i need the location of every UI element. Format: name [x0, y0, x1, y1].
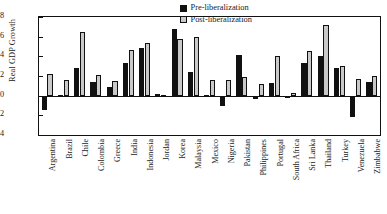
- bar-post-indonesia: [145, 43, 150, 96]
- zero-baseline: [39, 96, 380, 97]
- bar-post-philippines: [259, 84, 264, 96]
- bar-post-brazil: [64, 80, 69, 96]
- bar-post-thailand: [323, 25, 328, 96]
- bar-pre-brazil: [58, 95, 63, 97]
- bar-pre-turkey: [334, 68, 339, 96]
- bar-post-south-africa: [291, 93, 296, 96]
- bar-post-greece: [112, 81, 117, 96]
- bar-post-malaysia: [194, 37, 199, 96]
- x-tick-label-portugal: Portugal: [277, 139, 285, 166]
- y-tick-mark: [39, 135, 43, 136]
- bar-pre-india: [123, 63, 128, 95]
- bar-post-argentina: [47, 74, 52, 96]
- chart-figure: Real GDP Growth Pre-liberalization Post-…: [0, 0, 387, 214]
- legend-label-post: Post-liberalization: [191, 15, 252, 26]
- x-tick-label-argentina: Argentina: [49, 139, 57, 171]
- bar-post-mexico: [210, 80, 215, 96]
- bar-post-pakistan: [242, 77, 247, 96]
- bar-pre-malaysia: [188, 72, 193, 96]
- y-tick-label: 0: [0, 91, 4, 99]
- x-tick-label-greece: Greece: [114, 139, 122, 162]
- chart-legend: Pre-liberalization Post-liberalization: [180, 3, 252, 26]
- x-tick-label-thailand: Thailand: [325, 139, 333, 168]
- x-tick-label-venezuela: Venezuela: [358, 139, 366, 172]
- y-tick-label: 0.08: [0, 12, 4, 20]
- bar-pre-korea: [172, 29, 177, 96]
- y-tick-label: 0.06: [0, 32, 4, 40]
- x-tick-label-india: India: [131, 139, 139, 156]
- bar-post-chile: [80, 32, 85, 96]
- legend-swatch-post-icon: [180, 16, 187, 23]
- plot-area: [39, 17, 380, 135]
- bar-post-india: [129, 50, 134, 95]
- bar-pre-greece: [107, 87, 112, 96]
- bar-post-jordan: [161, 95, 166, 97]
- x-tick-label-philippines: Philippines: [260, 139, 268, 175]
- legend-item-post: Post-liberalization: [180, 15, 252, 26]
- bar-post-korea: [177, 39, 182, 96]
- bar-post-zimbabwe: [372, 76, 377, 96]
- legend-swatch-pre-icon: [180, 5, 187, 12]
- y-tick-label: -0.04: [0, 130, 4, 138]
- x-tick-label-turkey: Turkey: [342, 139, 350, 162]
- legend-item-pre: Pre-liberalization: [180, 3, 252, 14]
- x-tick-label-nigeria: Nigeria: [228, 139, 236, 163]
- bar-pre-philippines: [253, 96, 258, 99]
- x-tick-label-jordan: Jordan: [163, 139, 171, 161]
- bar-post-sri-lanka: [307, 51, 312, 95]
- bar-pre-sri-lanka: [301, 63, 306, 95]
- x-tick-label-south-africa: South Africa: [293, 139, 301, 180]
- bar-pre-colombia: [90, 82, 95, 96]
- legend-label-pre: Pre-liberalization: [191, 3, 249, 14]
- bar-pre-nigeria: [220, 96, 225, 107]
- x-tick-label-indonesia: Indonesia: [147, 139, 155, 170]
- bar-post-venezuela: [356, 79, 361, 96]
- bar-post-nigeria: [226, 80, 231, 96]
- y-tick-label: 0.02: [0, 71, 4, 79]
- x-tick-label-zimbabwe: Zimbabwe: [374, 139, 382, 174]
- x-tick-label-korea: Korea: [179, 139, 187, 159]
- bar-pre-portugal: [269, 83, 274, 96]
- bar-pre-thailand: [318, 56, 323, 95]
- y-tick-mark: [39, 115, 43, 116]
- bar-post-colombia: [96, 75, 101, 96]
- x-tick-label-colombia: Colombia: [98, 139, 106, 171]
- x-tick-label-pakistan: Pakistan: [244, 139, 252, 166]
- bar-pre-mexico: [204, 95, 209, 97]
- x-tick-label-malaysia: Malaysia: [195, 139, 203, 169]
- y-tick-mark: [39, 17, 43, 18]
- bar-pre-chile: [74, 68, 79, 96]
- y-tick-label: -0.02: [0, 110, 4, 118]
- bar-pre-jordan: [155, 94, 160, 96]
- bar-pre-venezuela: [350, 96, 355, 118]
- x-tick-label-chile: Chile: [82, 139, 90, 157]
- y-tick-mark: [39, 76, 43, 77]
- y-tick-mark: [39, 37, 43, 38]
- x-tick-label-sri-lanka: Sri Lanka: [309, 139, 317, 171]
- bar-pre-argentina: [42, 96, 47, 111]
- x-tick-label-mexico: Mexico: [212, 139, 220, 164]
- y-tick-mark: [39, 56, 43, 57]
- bar-post-portugal: [275, 56, 280, 95]
- y-axis-title: Real GDP Growth: [8, 0, 17, 114]
- x-tick-label-brazil: Brazil: [66, 139, 74, 159]
- y-tick-label: 0.04: [0, 51, 4, 59]
- bar-pre-pakistan: [236, 55, 241, 95]
- bar-pre-indonesia: [139, 48, 144, 95]
- bar-pre-south-africa: [285, 96, 290, 98]
- plot-frame: [38, 16, 381, 136]
- bar-post-turkey: [340, 66, 345, 96]
- bar-pre-zimbabwe: [366, 82, 371, 96]
